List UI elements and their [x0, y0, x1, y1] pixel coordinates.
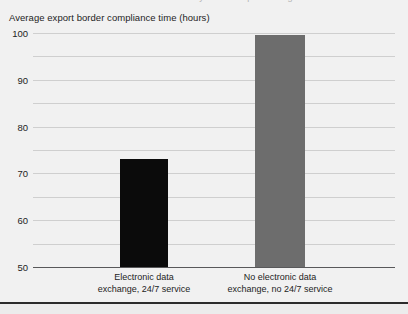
x-axis-category-label-line: exchange, no 24/7 service	[200, 284, 360, 296]
x-axis-category-label-line: No electronic data	[200, 272, 360, 284]
bar[interactable]	[120, 159, 168, 267]
y-axis-tick-label: 90	[17, 74, 28, 85]
chart-axis-title: Average export border compliance time (h…	[9, 12, 210, 23]
plot-area: 1009080706050403020100	[33, 33, 395, 267]
y-axis-tick-label: 50	[17, 262, 28, 273]
y-axis-tick-label: 70	[17, 168, 28, 179]
bottom-padding	[0, 304, 408, 314]
x-axis-labels: Electronic dataexchange, 24/7 serviceNo …	[33, 272, 395, 300]
axis-baseline: 0	[33, 267, 395, 268]
y-axis-tick-label: 80	[17, 121, 28, 132]
bar[interactable]	[255, 35, 305, 267]
chart-page: enforcement of contracts and the efficie…	[0, 0, 408, 314]
bar-series	[33, 33, 395, 267]
x-axis-category-label: No electronic dataexchange, no 24/7 serv…	[200, 272, 360, 295]
y-axis-tick-label: 100	[12, 28, 28, 39]
clipped-heading-remnant: enforcement of contracts and the efficie…	[0, 0, 408, 9]
clipped-heading-text: enforcement of contracts and the efficie…	[24, 0, 293, 2]
y-axis-tick-label: 60	[17, 215, 28, 226]
